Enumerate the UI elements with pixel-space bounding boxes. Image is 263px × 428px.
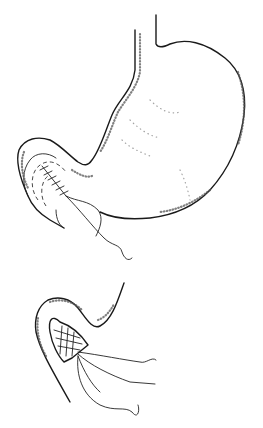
stomach-drawing <box>18 15 245 260</box>
mesh-stitches <box>54 326 82 356</box>
stomach-illustration <box>0 0 263 428</box>
suture-detail-drawing <box>36 283 157 415</box>
medical-illustration <box>0 0 263 428</box>
